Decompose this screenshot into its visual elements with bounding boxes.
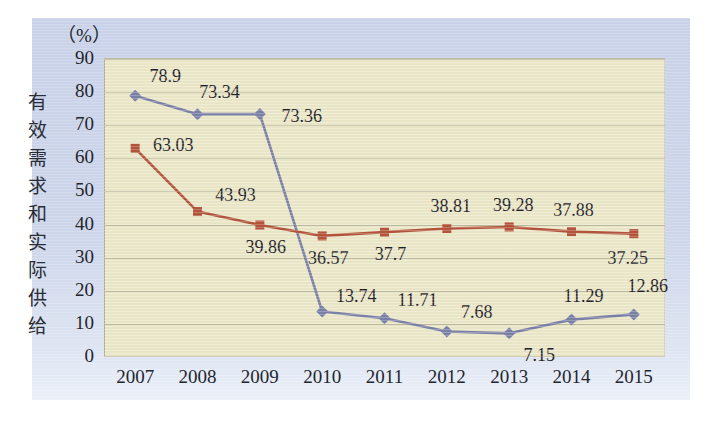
x-axis-tick-label: 2011 (366, 366, 403, 388)
y-axis-tick-label: 20 (75, 279, 94, 301)
data-point-label: 38.81 (431, 196, 472, 217)
y-axis-title-char: 和 (24, 200, 50, 228)
y-axis-title-char: 求 (24, 172, 50, 200)
data-point-marker (629, 229, 638, 238)
data-point-label: 37.25 (608, 247, 649, 268)
data-point-label: 13.74 (336, 285, 377, 306)
data-point-label: 39.86 (246, 237, 287, 258)
y-axis-tick-label: 50 (75, 179, 94, 201)
y-axis-tick-labels: 0102030405060708090 (56, 58, 98, 356)
y-axis-tick-label: 30 (75, 246, 94, 268)
data-point-marker (318, 231, 327, 240)
x-axis-tick-label: 2012 (428, 366, 466, 388)
data-point-label: 63.03 (153, 135, 194, 156)
data-point-label: 36.57 (308, 247, 349, 268)
data-point-label: 37.7 (375, 244, 407, 265)
data-point-marker (192, 108, 204, 120)
data-point-marker (254, 108, 266, 120)
data-point-marker (255, 221, 264, 230)
series-line-red-series (135, 148, 634, 236)
y-axis-title-char: 供 (24, 284, 50, 312)
y-axis-title-char: 需 (24, 144, 50, 172)
data-point-marker (442, 224, 451, 233)
x-axis-tick-label: 2008 (179, 366, 217, 388)
data-point-label: 73.34 (199, 82, 240, 103)
data-point-marker (129, 90, 141, 102)
data-point-marker (566, 314, 578, 326)
data-point-marker (316, 306, 328, 318)
data-point-label: 12.86 (628, 276, 669, 297)
chart-figure: （%） 有效需求和实际供给 0102030405060708090 78.973… (0, 0, 708, 422)
data-point-marker (193, 207, 202, 216)
data-point-label: 78.9 (149, 65, 181, 86)
data-point-label: 7.68 (461, 301, 493, 322)
y-axis-tick-label: 40 (75, 213, 94, 235)
data-point-label: 11.71 (398, 290, 438, 311)
data-point-label: 37.88 (553, 199, 594, 220)
data-point-label: 11.29 (564, 285, 604, 306)
x-axis-tick-label: 2014 (553, 366, 591, 388)
data-point-marker (628, 308, 640, 320)
y-axis-unit-label: （%） (57, 20, 111, 47)
y-axis-tick-label: 10 (75, 312, 94, 334)
data-point-label: 73.36 (282, 106, 323, 127)
y-axis-title: 有效需求和实际供给 (24, 88, 50, 340)
data-point-marker (379, 312, 391, 324)
y-axis-tick-label: 60 (75, 146, 94, 168)
y-axis-title-char: 有 (24, 88, 50, 116)
data-point-marker (131, 144, 140, 153)
data-point-marker (505, 222, 514, 231)
y-axis-title-char: 实 (24, 228, 50, 256)
x-axis-tick-label: 2010 (303, 366, 341, 388)
x-axis-tick-label: 2009 (241, 366, 279, 388)
data-point-label: 39.28 (493, 194, 534, 215)
y-axis-title-char: 给 (24, 312, 50, 340)
data-point-marker (503, 327, 515, 339)
x-axis-tick-labels: 200720082009201020112012201320142015 (104, 366, 665, 396)
data-point-marker (380, 228, 389, 237)
data-point-label: 43.93 (215, 184, 256, 205)
x-axis-tick-label: 2007 (116, 366, 154, 388)
x-axis-tick-label: 2015 (615, 366, 653, 388)
plot-area: 78.973.3473.3613.7411.717.687.1511.2912.… (104, 58, 665, 357)
x-axis-tick-label: 2013 (490, 366, 528, 388)
y-axis-tick-label: 70 (75, 113, 94, 135)
y-axis-title-char: 效 (24, 116, 50, 144)
data-point-marker (567, 227, 576, 236)
y-axis-tick-label: 90 (75, 47, 94, 69)
y-axis-tick-label: 80 (75, 80, 94, 102)
y-axis-title-char: 际 (24, 256, 50, 284)
data-point-marker (441, 326, 453, 338)
y-axis-tick-label: 0 (85, 345, 95, 367)
data-point-label: 7.15 (523, 345, 555, 366)
